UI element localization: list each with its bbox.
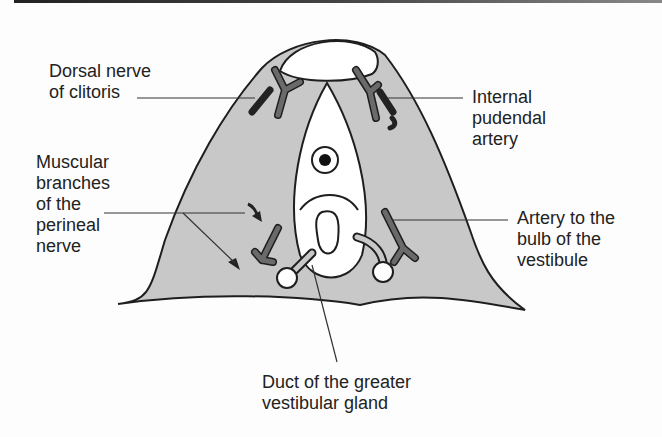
right-greater-vestibular-gland (373, 262, 393, 282)
label-artery-to-bulb-of-vestibule: Artery to the bulb of the vestibule (517, 208, 615, 271)
left-greater-vestibular-gland (277, 268, 297, 288)
label-duct-greater-vestibular-gland: Duct of the greater vestibular gland (262, 372, 411, 414)
vaginal-opening (316, 211, 338, 253)
label-muscular-branches-perineal-nerve: Muscular branches of the perineal nerve (36, 152, 110, 257)
urethral-lumen (319, 154, 331, 166)
label-dorsal-nerve-of-clitoris: Dorsal nerve of clitoris (49, 61, 151, 103)
label-internal-pudendal-artery: Internal pudendal artery (472, 87, 546, 150)
diagram-canvas: Dorsal nerve of clitoris Internal pudend… (0, 0, 662, 437)
